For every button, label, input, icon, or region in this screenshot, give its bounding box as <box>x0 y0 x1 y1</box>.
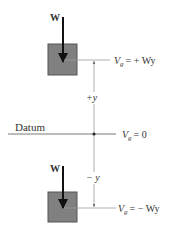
lower-weight-label: W <box>50 163 60 174</box>
positive-y-label: +y <box>86 92 98 103</box>
datum-label: Datum <box>15 121 45 133</box>
negative-y-label: − y <box>86 172 100 183</box>
datum-potential-label: Vg= 0 <box>122 129 147 142</box>
gravitational-potential-diagram: W Vg= + Wy +y − y Datum Vg= 0 W Vg= − Wy <box>0 0 180 235</box>
lower-block-group: W Vg= − Wy <box>48 163 160 222</box>
upper-potential-label: Vg= + Wy <box>114 55 156 68</box>
datum-point <box>93 133 96 136</box>
lower-potential-label: Vg= − Wy <box>118 203 160 216</box>
datum-group: Datum Vg= 0 <box>8 121 147 142</box>
upper-weight-label: W <box>50 12 60 23</box>
upper-block-group: W Vg= + Wy <box>48 12 156 75</box>
